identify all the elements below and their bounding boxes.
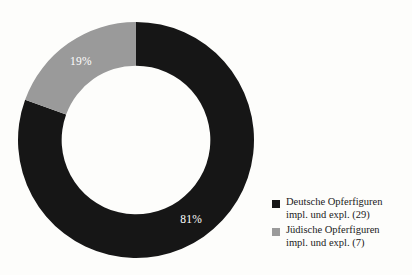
- legend-label-line1: Deutsche Opferfiguren: [286, 196, 383, 209]
- legend-swatch-gray: [272, 228, 280, 236]
- donut-chart-graphic: 19% 81%: [8, 10, 264, 270]
- donut-svg: 19% 81%: [8, 10, 264, 270]
- legend-label-line2: impl. und expl. (7): [286, 237, 380, 250]
- donut-slice-juedische-opferfiguren[interactable]: [25, 22, 136, 115]
- slice-label-19-percent: 19%: [70, 55, 92, 67]
- legend-item-juedische-opferfiguren[interactable]: Jüdische Opferfiguren impl. und expl. (7…: [272, 224, 408, 249]
- legend-swatch-black: [272, 200, 280, 208]
- legend-label-line1: Jüdische Opferfiguren: [286, 224, 380, 237]
- legend-label-juedische: Jüdische Opferfiguren impl. und expl. (7…: [286, 224, 380, 249]
- legend-label-deutsche: Deutsche Opferfiguren impl. und expl. (2…: [286, 196, 383, 221]
- chart-legend: Deutsche Opferfiguren impl. und expl. (2…: [272, 196, 408, 252]
- legend-label-line2: impl. und expl. (29): [286, 209, 383, 222]
- legend-item-deutsche-opferfiguren[interactable]: Deutsche Opferfiguren impl. und expl. (2…: [272, 196, 408, 221]
- donut-chart-figure: 19% 81% Deutsche Opferfiguren impl. und …: [0, 0, 412, 275]
- slice-label-81-percent: 81%: [180, 213, 202, 225]
